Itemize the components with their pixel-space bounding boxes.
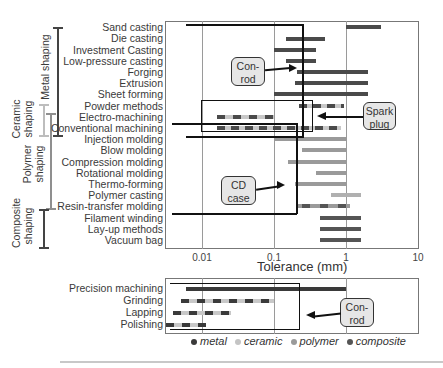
bar-lay-up-methods bbox=[320, 227, 361, 231]
sparkplug-callout: Sparkplug bbox=[363, 102, 396, 130]
cdcase-outline-right bbox=[296, 123, 298, 214]
row-label: Precision machining bbox=[69, 283, 163, 294]
cdcase-callout: CDcase bbox=[221, 176, 256, 205]
metal-dot-icon bbox=[191, 339, 197, 345]
legend-composite: composite bbox=[342, 335, 406, 347]
bar-blow-molding bbox=[302, 148, 347, 152]
bar-polymer-casting bbox=[331, 193, 361, 197]
divider bbox=[60, 361, 443, 363]
bar-sand-casting bbox=[346, 25, 381, 29]
legend-metal: metal bbox=[186, 335, 227, 347]
plot-area bbox=[165, 21, 419, 249]
row-label: Grinding bbox=[123, 295, 163, 306]
conrod-outline-top bbox=[186, 24, 303, 26]
bar-resin-transfer-molding bbox=[296, 204, 350, 208]
conrod-callout: Con-rod bbox=[231, 57, 265, 86]
bottom-conrod-outline bbox=[170, 283, 300, 330]
bar-filament-winding bbox=[320, 216, 361, 220]
gridline-1 bbox=[346, 21, 347, 249]
bar-rotational-molding bbox=[316, 171, 346, 175]
bottom-row-labels: Precision machining Grinding Lapping Pol… bbox=[0, 0, 163, 330]
ceramic-dot-icon bbox=[235, 339, 241, 345]
x-tick-0.01: 0.01 bbox=[192, 252, 211, 263]
cdcase-arrowhead bbox=[277, 181, 285, 189]
bar-vacuum-bag bbox=[320, 238, 361, 242]
legend-ceramic: ceramic bbox=[230, 335, 283, 347]
bar-forging bbox=[297, 70, 368, 74]
x-axis-title: Tolerance (mm) bbox=[257, 259, 347, 274]
legend-polymer: polymer bbox=[286, 335, 339, 347]
polymer-dot-icon bbox=[291, 339, 297, 345]
row-label: Polishing bbox=[120, 319, 163, 330]
cdcase-outline-top bbox=[172, 123, 297, 125]
legend: metal ceramic polymer composite bbox=[186, 335, 406, 347]
bottom-conrod-callout: Con-rod bbox=[340, 298, 374, 327]
bar-injection-molding bbox=[274, 137, 346, 141]
bar-sheet-forming bbox=[274, 92, 368, 96]
bar-investment-casting bbox=[274, 48, 316, 52]
bar-die-casting bbox=[286, 37, 325, 41]
conrod-arrowhead bbox=[289, 64, 297, 72]
gridline-0.01 bbox=[202, 21, 203, 249]
gridline-0.1 bbox=[274, 21, 275, 249]
x-tick-10: 10 bbox=[412, 252, 423, 263]
cdcase-outline-bottom bbox=[172, 213, 297, 215]
bar-extrusion bbox=[295, 81, 368, 85]
sparkplug-arrow bbox=[325, 116, 363, 118]
conrod-outline-bottom bbox=[186, 136, 304, 138]
row-label: Lapping bbox=[126, 307, 163, 318]
bottom-conrod-arrowhead bbox=[306, 311, 315, 319]
bar-low-pressure-casting bbox=[286, 59, 316, 63]
bar-thermo-forming bbox=[295, 182, 346, 186]
composite-dot-icon bbox=[347, 339, 353, 345]
sparkplug-arrowhead bbox=[317, 112, 326, 120]
